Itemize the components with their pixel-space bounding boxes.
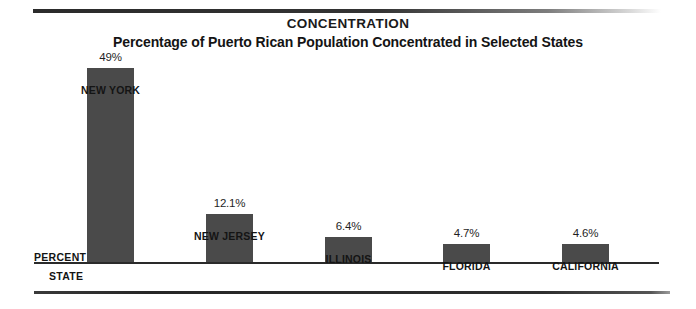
bottom-divider-rule <box>34 291 670 294</box>
bar-group-florida: 4.7% FLORIDA <box>443 244 490 262</box>
bar-group-california: 4.6% CALIFORNIA <box>562 244 609 262</box>
bar-group-new-jersey: 12.1% NEW JERSEY <box>206 214 253 262</box>
bar-group-illinois: 6.4% ILLINOIS <box>325 237 372 262</box>
bar-value-label: 4.7% <box>423 227 510 239</box>
category-label-california: CALIFORNIA <box>520 260 651 272</box>
category-label-new-jersey: NEW JERSEY <box>164 230 295 242</box>
x-axis-caption-state: STATE <box>49 270 83 282</box>
bar-value-label: 4.6% <box>542 227 629 239</box>
chart-page: CONCENTRATION Percentage of Puerto Rican… <box>0 0 696 309</box>
plot-area: 49% NEW YORK 12.1% NEW JERSEY 6.4% ILLIN… <box>0 0 696 309</box>
category-label-new-york: NEW YORK <box>45 84 176 96</box>
category-label-illinois: ILLINOIS <box>283 253 414 265</box>
bar-value-label: 49% <box>67 51 154 63</box>
bar-value-label: 6.4% <box>305 220 392 232</box>
bar-group-new-york: 49% NEW YORK <box>87 68 134 262</box>
bar-value-label: 12.1% <box>186 197 273 209</box>
category-label-florida: FLORIDA <box>401 260 532 272</box>
y-axis-caption-percent: PERCENT <box>34 251 86 263</box>
bar-rect[interactable] <box>87 68 134 262</box>
